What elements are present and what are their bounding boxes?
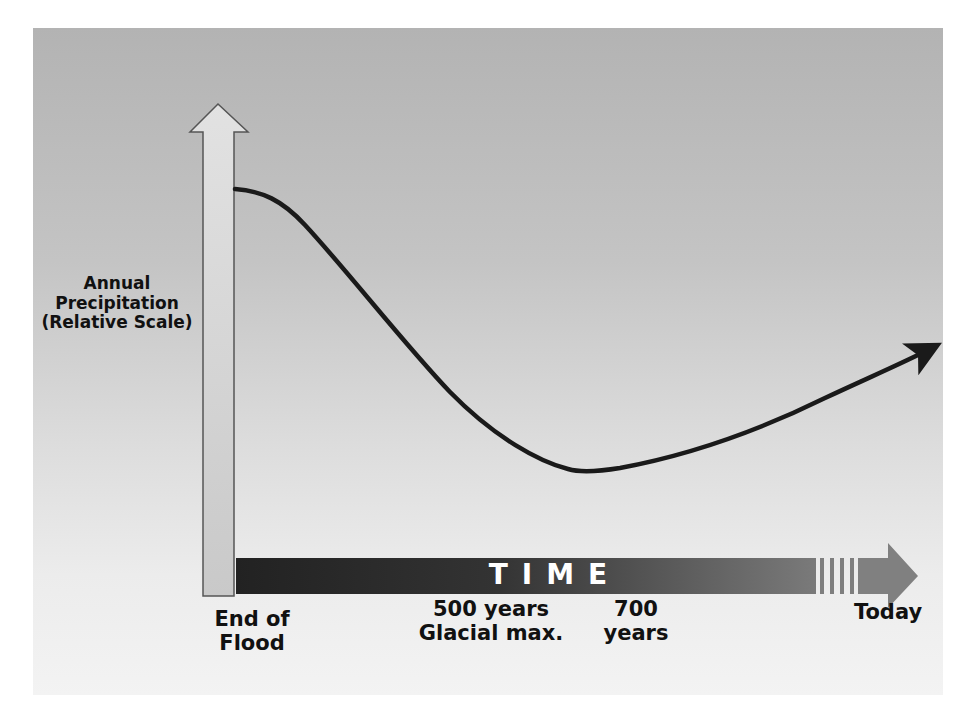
x-tick-line: 700 [596,598,676,622]
x-tick-500-years: 500 years Glacial max. [406,598,576,645]
y-axis-label-line: Precipitation [36,294,198,314]
x-tick-end-of-flood: End of Flood [192,608,312,655]
y-axis-arrow-icon [190,104,248,596]
x-tick-line: 500 years [406,598,576,622]
x-tick-line: Today [838,601,938,625]
y-axis-label-line: (Relative Scale) [36,313,198,333]
x-tick-line: years [596,622,676,646]
x-tick-line: Glacial max. [406,622,576,646]
x-tick-line: Flood [192,632,312,656]
y-axis-label: Annual Precipitation (Relative Scale) [36,274,198,333]
y-axis-label-line: Annual [36,274,198,294]
precipitation-curve [235,189,930,471]
x-tick-700-years: 700 years [596,598,676,645]
x-tick-line: End of [192,608,312,632]
time-axis-banner: TIME [470,556,640,594]
x-tick-today: Today [838,601,938,625]
